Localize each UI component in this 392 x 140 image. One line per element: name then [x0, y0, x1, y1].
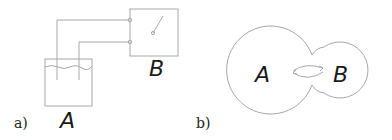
vessel-box	[45, 59, 92, 106]
liquid-surface	[45, 66, 92, 70]
exchange-arrows-icon	[293, 66, 323, 78]
panel-a: B A a)	[14, 9, 178, 133]
panel-b: A B b)	[196, 26, 368, 131]
vessel-label: A	[58, 108, 75, 133]
switch-icon	[151, 16, 163, 35]
device-label: B	[149, 56, 164, 81]
region-left-label: A	[253, 62, 270, 87]
figure-canvas: B A a) A B b)	[0, 0, 392, 140]
wire-upper	[57, 20, 129, 80]
caption-a: a)	[14, 115, 28, 131]
wire-lower	[79, 42, 129, 80]
caption-b: b)	[196, 115, 210, 131]
region-right-label: B	[333, 62, 348, 87]
